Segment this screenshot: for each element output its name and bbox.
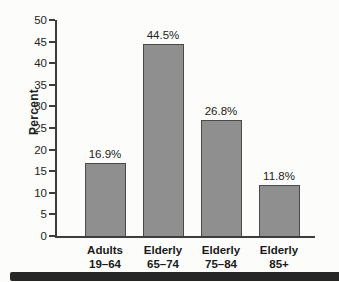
y-tick-label: 50 <box>17 13 47 27</box>
bar <box>85 163 126 236</box>
y-tick-mark <box>49 19 55 21</box>
y-tick-label: 5 <box>17 207 47 221</box>
y-tick-label: 15 <box>17 164 47 178</box>
y-tick-mark <box>49 105 55 107</box>
bottom-rule <box>10 272 339 281</box>
bar-value-label: 11.8% <box>247 170 311 182</box>
y-tick-label: 20 <box>17 143 47 157</box>
y-tick-mark <box>49 149 55 151</box>
figure: Percent 0510152025303540455016.9%Adults … <box>0 0 339 282</box>
y-tick-label: 30 <box>17 99 47 113</box>
y-tick-mark <box>49 41 55 43</box>
y-tick-mark <box>49 192 55 194</box>
plot-area: Percent 0510152025303540455016.9%Adults … <box>55 20 315 238</box>
bar <box>259 185 300 236</box>
y-tick-mark <box>49 213 55 215</box>
y-tick-mark <box>49 127 55 129</box>
y-tick-label: 35 <box>17 78 47 92</box>
y-tick-mark <box>49 170 55 172</box>
bar <box>201 120 242 236</box>
bar <box>143 44 184 236</box>
y-tick-label: 40 <box>17 56 47 70</box>
x-tick-label: Elderly 85+ <box>244 244 314 271</box>
bar-value-label: 26.8% <box>189 105 253 117</box>
y-tick-mark <box>49 235 55 237</box>
y-tick-mark <box>49 84 55 86</box>
y-tick-label: 45 <box>17 35 47 49</box>
y-tick-label: 0 <box>17 229 47 243</box>
y-tick-mark <box>49 62 55 64</box>
y-tick-label: 25 <box>17 121 47 135</box>
bar-value-label: 16.9% <box>73 148 137 160</box>
bar-value-label: 44.5% <box>131 29 195 41</box>
y-tick-label: 10 <box>17 186 47 200</box>
